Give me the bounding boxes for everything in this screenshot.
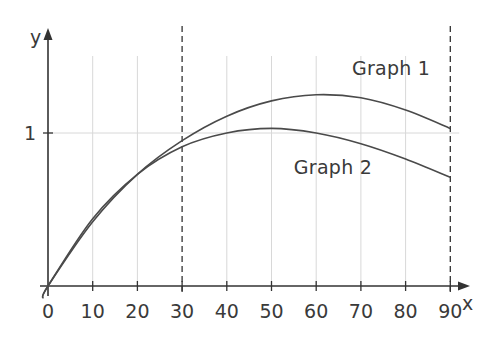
- x-tick-label: 20: [125, 300, 149, 322]
- curve-graph-2: [42, 128, 450, 298]
- x-tick-label: 80: [394, 300, 418, 322]
- curves: [42, 95, 450, 299]
- x-tick-label: 70: [349, 300, 373, 322]
- y-axis-label: y: [30, 26, 41, 48]
- x-tick-label: 60: [304, 300, 328, 322]
- x-tick-label: 50: [259, 300, 283, 322]
- annotation-graph-2: Graph 2: [294, 156, 372, 178]
- x-axis-label: x: [462, 292, 473, 314]
- x-tick-label: 40: [215, 300, 239, 322]
- x-tick-label: 10: [81, 300, 105, 322]
- annotation-graph-1: Graph 1: [352, 57, 430, 79]
- x-tick-label: 30: [170, 300, 194, 322]
- curve-graph-1: [42, 95, 450, 299]
- y-axis-arrow-icon: [44, 28, 53, 40]
- x-tick-label: 90: [438, 300, 462, 322]
- x-axis-arrow-icon: [458, 282, 470, 291]
- y-tick-label: 1: [24, 122, 36, 144]
- x-tick-label: 0: [42, 300, 54, 322]
- chart: 01020304050607080901 x y Graph 1Graph 2: [0, 0, 497, 343]
- grid-lines: [48, 56, 459, 286]
